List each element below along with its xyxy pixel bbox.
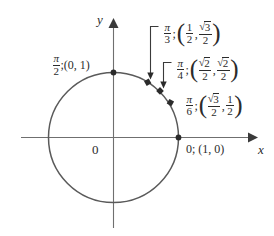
zero-coordinates: (1, 0) xyxy=(198,143,224,155)
point-marker-pi-over-6 xyxy=(167,99,174,106)
sqrt-2-icon-2: 2 xyxy=(218,57,229,70)
fraction-pi-over-4-y: 2 2 xyxy=(217,57,230,82)
pi-over-3-comma: , xyxy=(194,28,199,40)
pi-over-2-numerator: π xyxy=(53,53,61,66)
pi-over-3-right-paren: ) xyxy=(212,23,220,44)
sqrt-3-icon-2: 3 xyxy=(209,93,220,106)
fraction-pi-over-6-x: 3 2 xyxy=(208,93,221,118)
fraction-pi-over-3-x: 1 2 xyxy=(186,22,194,46)
pi-over-4-comma: , xyxy=(212,64,217,76)
pi-over-4-x-denominator: 2 xyxy=(199,71,212,83)
label-pi-over-4: π 4 ;( 2 2 , 2 2 ) xyxy=(176,57,239,82)
leader-pi-over-3 xyxy=(147,27,158,80)
pi-over-3-y-denominator: 2 xyxy=(199,35,212,47)
sqrt-2-icon: 2 xyxy=(200,57,211,70)
label-pi-over-3: π 3 ;( 1 2 , 3 2 ) xyxy=(163,21,221,46)
leader-pi-over-4-path xyxy=(164,63,172,83)
pi-over-6-denominator: 6 xyxy=(186,106,194,118)
leader-pi-over-3-arrowhead xyxy=(147,73,153,80)
pi-over-3-x-denominator: 2 xyxy=(186,34,194,46)
fraction-pi-over-3: π 3 xyxy=(164,22,172,46)
pi-over-2-coordinates: (0, 1) xyxy=(64,59,90,71)
sqrt-3-icon: 3 xyxy=(200,21,211,34)
fraction-pi-over-3-y: 3 2 xyxy=(199,21,212,46)
pi-over-4-denominator: 4 xyxy=(177,70,185,82)
label-pi-over-2: π 2 ; (0, 1) xyxy=(52,53,90,77)
pi-over-4-y-numerator: 2 xyxy=(217,57,230,71)
pi-over-6-right-paren: ) xyxy=(234,95,242,116)
fraction-pi-over-2: π 2 xyxy=(53,53,61,77)
x-axis-arrowhead xyxy=(248,133,258,143)
pi-over-2-denominator: 2 xyxy=(53,66,61,78)
pi-over-6-left-paren: ( xyxy=(199,95,207,116)
fraction-pi-over-6-y: 1 2 xyxy=(226,94,234,118)
fraction-pi-over-4-x: 2 2 xyxy=(199,57,212,82)
y-axis xyxy=(109,18,119,228)
pi-over-4-right-paren: ) xyxy=(230,59,238,80)
pi-over-6-comma: , xyxy=(221,100,226,112)
origin-label: 0 xyxy=(92,142,99,158)
point-marker-zero xyxy=(176,135,182,141)
leader-pi-over-4-arrowhead xyxy=(160,82,166,89)
point-marker-pi-over-4 xyxy=(156,87,164,95)
fraction-pi-over-6: π 6 xyxy=(186,94,194,118)
leader-pi-over-3-path xyxy=(151,27,159,74)
leader-pi-over-4 xyxy=(160,63,171,89)
zero-angle: 0; xyxy=(186,143,195,155)
point-marker-pi-over-2 xyxy=(111,70,117,76)
pi-over-3-denominator: 3 xyxy=(164,34,172,46)
x-axis xyxy=(21,133,258,143)
pi-over-4-left-paren: ( xyxy=(190,59,198,80)
y-axis-label: y xyxy=(97,12,103,28)
pi-over-6-x-numerator: 3 xyxy=(208,93,221,107)
pi-over-6-y-denominator: 2 xyxy=(226,106,234,118)
unit-circle-figure: π 2 ; (0, 1) π 3 ;( 1 2 , 3 2 ) π 4 ;( 2… xyxy=(0,0,274,236)
y-axis-arrowhead xyxy=(109,18,119,28)
pi-over-3-left-paren: ( xyxy=(177,23,185,44)
fraction-pi-over-4: π 4 xyxy=(177,58,185,82)
label-zero-point: 0; (1, 0) xyxy=(186,142,224,155)
pi-over-4-x-numerator: 2 xyxy=(199,57,212,71)
pi-over-6-x-denominator: 2 xyxy=(208,107,221,119)
x-axis-label: x xyxy=(258,142,264,158)
pi-over-3-y-numerator: 3 xyxy=(199,21,212,35)
pi-over-4-y-denominator: 2 xyxy=(217,71,230,83)
label-pi-over-6: π 6 ;( 3 2 , 1 2 ) xyxy=(185,93,243,118)
